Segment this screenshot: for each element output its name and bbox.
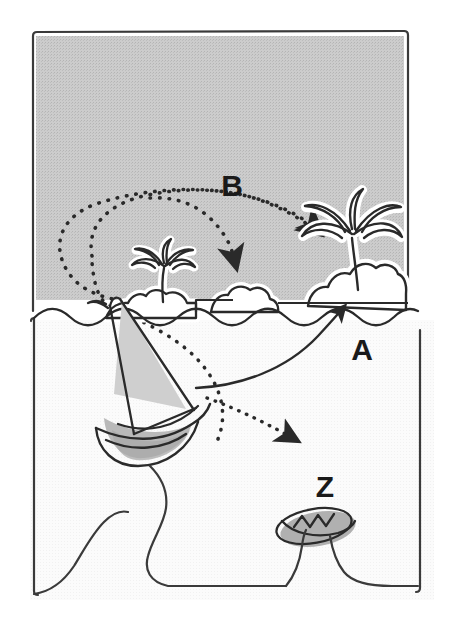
sea-panel <box>30 320 434 600</box>
illustration-canvas: B A Z <box>0 0 463 625</box>
label-z: Z <box>316 470 334 503</box>
label-b: B <box>221 169 243 202</box>
background-panels <box>30 36 434 600</box>
scene-svg: B A Z <box>0 0 463 625</box>
sky-panel <box>36 36 404 300</box>
mast-head <box>88 301 108 308</box>
label-a: A <box>351 333 373 366</box>
